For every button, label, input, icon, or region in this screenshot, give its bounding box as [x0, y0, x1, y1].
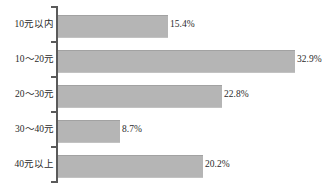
value-label: 32.9% [297, 54, 322, 65]
bar [58, 15, 168, 38]
value-label: 20.2% [205, 159, 230, 170]
bar [58, 120, 120, 143]
bar-row: 20～30元 22.8% [0, 82, 332, 116]
value-label: 15.4% [170, 19, 195, 30]
bar-row: 10～20元 32.9% [0, 47, 332, 81]
bar [58, 50, 295, 73]
category-label: 10～20元 [0, 54, 54, 65]
category-label: 20～30元 [0, 89, 54, 100]
value-label: 22.8% [224, 89, 249, 100]
bar-chart: 10元以内 15.4% 10～20元 32.9% 20～30元 22.8% 30… [0, 0, 332, 189]
category-label: 10元以内 [0, 19, 54, 30]
value-label: 8.7% [122, 124, 142, 135]
bar [58, 85, 222, 108]
bar-row: 40元以上 20.2% [0, 152, 332, 186]
axis-tick [51, 6, 56, 8]
bar-row: 30～40元 8.7% [0, 117, 332, 151]
category-label: 40元以上 [0, 159, 54, 170]
bar [58, 155, 203, 178]
category-label: 30～40元 [0, 124, 54, 135]
bar-row: 10元以内 15.4% [0, 12, 332, 46]
